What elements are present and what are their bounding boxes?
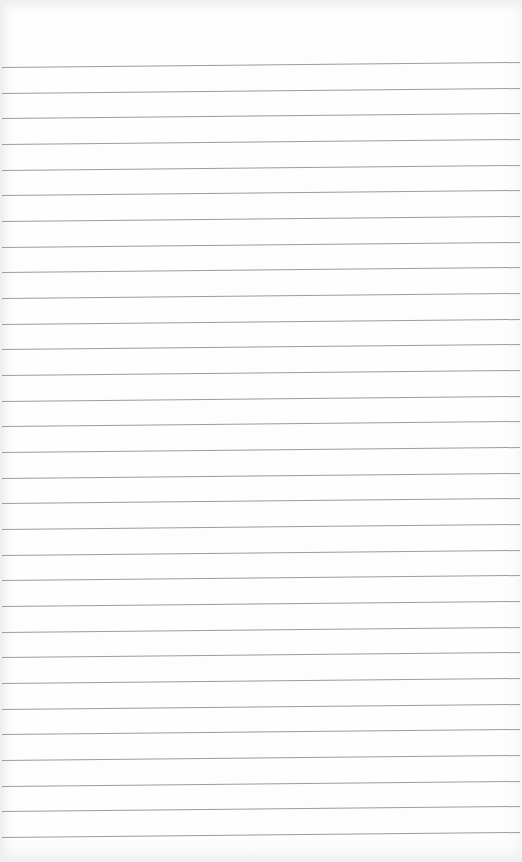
ruled-line — [2, 755, 520, 761]
ruled-line — [2, 62, 520, 68]
ruled-line — [2, 190, 520, 196]
ruled-line — [2, 344, 520, 350]
ruled-line — [2, 652, 520, 658]
ruled-line — [2, 421, 520, 427]
ruled-line — [2, 575, 520, 581]
ruled-line — [2, 396, 520, 402]
ruled-line — [2, 216, 520, 222]
ruled-line — [2, 627, 520, 633]
ruled-paper-sheet — [0, 0, 522, 862]
ruled-line — [2, 242, 520, 248]
ruled-line — [2, 524, 520, 530]
ruled-line — [2, 729, 520, 735]
ruled-line — [2, 601, 520, 607]
ruled-line — [2, 550, 520, 556]
paper-bottom-edge — [0, 846, 522, 862]
ruled-line — [2, 498, 520, 504]
ruled-line — [2, 832, 520, 838]
ruled-line — [2, 319, 520, 325]
ruled-line — [2, 781, 520, 787]
ruled-line — [2, 113, 520, 119]
ruled-line — [2, 370, 520, 376]
ruled-lines — [0, 0, 522, 862]
ruled-line — [2, 88, 520, 94]
ruled-line — [2, 267, 520, 273]
ruled-line — [2, 139, 520, 145]
ruled-line — [2, 704, 520, 710]
ruled-line — [2, 165, 520, 171]
ruled-line — [2, 678, 520, 684]
ruled-line — [2, 447, 520, 453]
ruled-line — [2, 806, 520, 812]
ruled-line — [2, 293, 520, 299]
ruled-line — [2, 473, 520, 479]
